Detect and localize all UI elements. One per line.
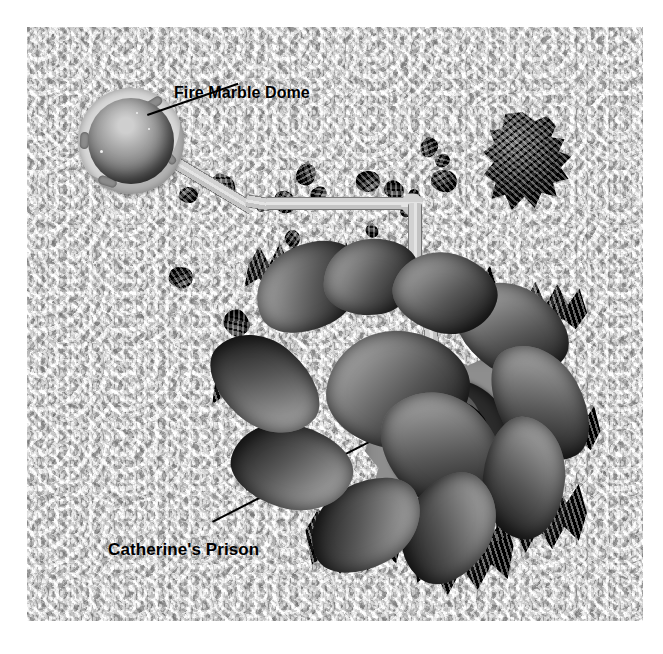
fire-marble-dome-structure[interactable] — [78, 88, 184, 194]
central-rock-island — [195, 239, 615, 621]
dome-speck-a — [100, 150, 103, 153]
walkway-segment-horizontal — [266, 197, 410, 210]
dome-speck-b — [136, 112, 138, 114]
label-catherines-prison: Catherine's Prison — [108, 540, 259, 560]
illustration-plate: Fire Marble Dome Catherine's Prison — [27, 27, 643, 621]
label-fire-marble-dome: Fire Marble Dome — [174, 84, 310, 102]
dome-speck-c — [148, 128, 150, 130]
map-page: Fire Marble Dome Catherine's Prison — [0, 0, 663, 654]
